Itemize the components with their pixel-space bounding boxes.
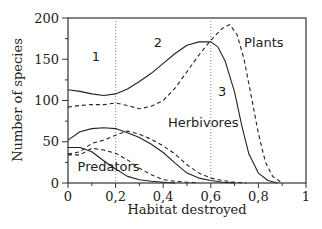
annotation-predators: Predators (78, 159, 140, 174)
x-tick-label: 1 (302, 189, 310, 204)
annotation-herbivores: Herbivores (168, 115, 239, 130)
annotation-1: 1 (92, 49, 100, 64)
annotation-2: 2 (154, 35, 162, 50)
series-line-herbivores-dashed (68, 131, 247, 183)
x-tick-label: 0,2 (105, 189, 126, 204)
species-chart: 00,20,40,60,81 050100150200 123PlantsHer… (0, 0, 322, 229)
x-axis-title: Habitat destroyed (127, 202, 246, 217)
y-tick-label: 50 (42, 134, 59, 149)
y-axis-ticks: 050100150200 (34, 11, 68, 191)
y-tick-label: 100 (34, 93, 59, 108)
y-tick-label: 150 (34, 52, 59, 67)
y-tick-label: 200 (34, 11, 59, 26)
y-tick-label: 0 (51, 176, 59, 191)
x-tick-label: 0,8 (248, 189, 269, 204)
y-axis-title: Number of species (10, 38, 25, 162)
annotation-3: 3 (218, 84, 226, 99)
annotation-plants: Plants (244, 35, 284, 50)
x-axis-ticks: 00,20,40,60,81 (64, 183, 310, 204)
x-tick-label: 0 (64, 189, 72, 204)
